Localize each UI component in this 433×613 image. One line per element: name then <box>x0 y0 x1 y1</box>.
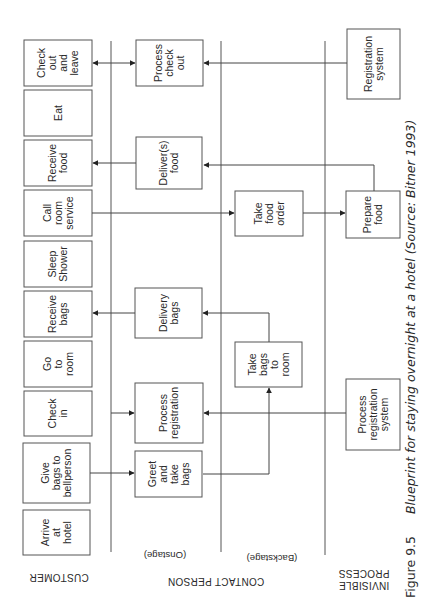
lane-label-backstage: (Backstage) <box>247 553 298 564</box>
service-blueprint-diagram: CheckoutandleaveEatReceivefoodCallroomse… <box>0 0 433 613</box>
lane-label-invisible: INVISIBLE <box>339 580 390 591</box>
box-label-line: system <box>373 47 385 81</box>
box-label-line: order <box>274 201 286 226</box>
box-label-line: bags <box>168 302 180 325</box>
box-label-line: room <box>279 352 291 376</box>
lane-label-contact-person: CONTACT PERSON <box>168 576 265 587</box>
box-label-eat: Eat <box>52 105 64 121</box>
box-label-line: Shower <box>57 246 69 282</box>
box-label-process-registration: Processregistration <box>157 387 180 439</box>
box-label-line: Eat <box>52 105 64 121</box>
figure-title: Blueprint for staying overnight at a hot… <box>403 120 418 514</box>
figure-number: Figure 9.5 <box>403 536 418 598</box>
box-label-line: food <box>168 153 180 174</box>
box-label-sleep-shower: SleepShower <box>46 246 69 282</box>
box-label-greet-and-take-bags: Greetandtakebags <box>146 461 191 487</box>
box-label-line: leave <box>68 50 80 75</box>
box-label-line: registration <box>168 387 180 439</box>
box-label-line: bags <box>57 303 69 326</box>
box-label-line: hotel <box>61 521 73 544</box>
box-label-line: bellperson <box>61 449 73 498</box>
box-label-take-bags-to-room: Takebagstoroom <box>246 352 291 376</box>
box-label-take-food-order: Takefoodorder <box>252 201 286 226</box>
box-label-line: room <box>63 352 75 376</box>
box-label-line: bags <box>179 463 191 486</box>
box-label-line: food <box>57 153 69 174</box>
box-label-line: system <box>378 398 390 432</box>
box-label-line: service <box>63 196 75 229</box>
box-label-line: in <box>57 409 69 417</box>
flow-greet-to-take-bags-to-room <box>203 388 269 474</box>
flow-prepare-food-to-deliver-food <box>204 165 374 191</box>
box-label-line: out <box>174 56 186 71</box>
figure-caption: Figure 9.5 Blueprint for staying overnig… <box>403 120 418 598</box>
lane-label-process: PROCESS <box>338 568 389 579</box>
lane-label-onstage: (Onstage) <box>144 550 186 561</box>
lane-label-customer: CUSTOMER <box>29 572 88 583</box>
flow-take-bags-to-delivery-bags <box>203 313 269 342</box>
box-label-line: food <box>372 204 384 225</box>
